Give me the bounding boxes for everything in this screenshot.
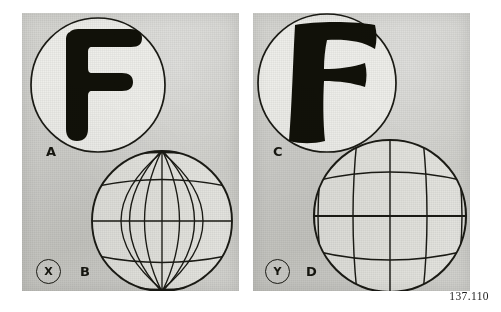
label-d: D	[306, 265, 317, 278]
label-c: C	[273, 145, 283, 158]
panel-left: A B X	[22, 13, 239, 291]
figure-root: A B X	[0, 0, 501, 312]
label-a: A	[46, 145, 56, 158]
marker-y-text: Y	[274, 265, 282, 278]
panel-marker-x: X	[36, 259, 61, 284]
panel-marker-y: Y	[265, 259, 290, 284]
figure-caption-number: 137.110	[449, 290, 489, 302]
circle-c	[258, 14, 396, 152]
circle-a	[31, 18, 165, 152]
panel-right: C D Y	[253, 13, 470, 291]
label-b: B	[80, 265, 90, 278]
panel-right-artwork	[253, 13, 470, 291]
globe-b	[92, 149, 232, 291]
marker-x-text: X	[44, 265, 52, 278]
